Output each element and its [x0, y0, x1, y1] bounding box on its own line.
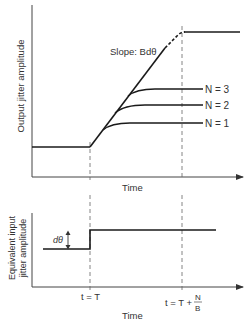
tick-tn-denominator: B [195, 304, 200, 313]
top-chart: N = 3 N = 2 N = 1 Slope: Bdθ Time Output… [15, 5, 243, 193]
curve-n3-label: N = 3 [205, 84, 230, 95]
tick-tn-numerator: N [195, 293, 201, 302]
jitter-response-diagram: N = 3 N = 2 N = 1 Slope: Bdθ Time Output… [0, 0, 251, 331]
top-x-label: Time [122, 182, 143, 193]
slope-label: Slope: Bdθ [110, 46, 156, 57]
curve-n3 [128, 89, 203, 96]
tick-t-label: t = T [81, 291, 100, 302]
bottom-x-label: Time [122, 310, 143, 321]
slope-line [90, 48, 165, 147]
bottom-y-label-line1: Equivalent input [7, 215, 17, 280]
curve-n2 [115, 105, 203, 113]
curve-n2-label: N = 2 [205, 100, 230, 111]
dtheta-label: dθ [53, 235, 63, 245]
top-y-label: Output jitter amplitude [15, 40, 26, 133]
curve-n1 [103, 123, 203, 130]
tick-tn-prefix: t = T + [165, 297, 193, 308]
dtheta-arrow-icon [66, 231, 71, 250]
bottom-chart: dθ Equivalent input jitter amplitude t =… [7, 195, 243, 321]
curve-n1-label: N = 1 [205, 118, 230, 129]
bottom-y-label-line2: jitter amplitude [18, 219, 28, 279]
